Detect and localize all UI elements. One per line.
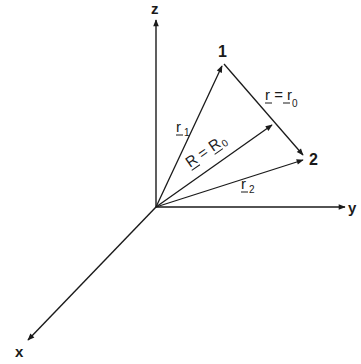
vector-diagram: z y x 1 2 r 1 r 2 R = R 0 r = r 0: [0, 0, 361, 364]
svg-text:r = r: r = r: [265, 86, 292, 103]
vector-r-1-to-2: [224, 64, 303, 155]
point-1-label: 1: [218, 43, 227, 60]
x-axis-label: x: [15, 343, 24, 360]
svg-text:r: r: [176, 118, 181, 135]
svg-text:1: 1: [184, 127, 190, 138]
vector-r2: [156, 160, 303, 207]
point-2-label: 2: [309, 151, 318, 168]
z-axis-label: z: [151, 0, 159, 17]
label-r-equals-r0: r = r 0: [265, 86, 298, 109]
label-r1: r 1: [176, 118, 190, 138]
svg-text:0: 0: [292, 98, 298, 109]
y-axis-label: y: [348, 199, 357, 216]
x-axis: [28, 207, 156, 340]
svg-text:r: r: [241, 175, 246, 192]
svg-text:2: 2: [249, 184, 255, 195]
